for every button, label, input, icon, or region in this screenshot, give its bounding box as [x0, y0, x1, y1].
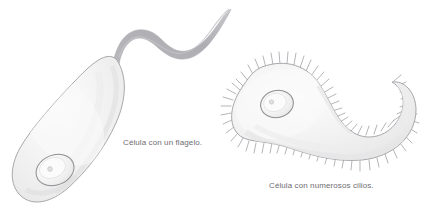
- figure-canvas: Célula con un flagelo. Célula con numero…: [0, 0, 435, 218]
- flagellated-cell: [3, 9, 231, 202]
- caption-ciliated-cell: Célula con numerosos cilios.: [269, 181, 374, 191]
- ciliated-cell: [221, 52, 419, 171]
- caption-flagellated-cell: Célula con un flagelo.: [123, 138, 202, 148]
- nucleolus-flagellated: [48, 167, 53, 172]
- nucleolus-ciliated: [269, 100, 273, 104]
- flagellum: [113, 9, 231, 64]
